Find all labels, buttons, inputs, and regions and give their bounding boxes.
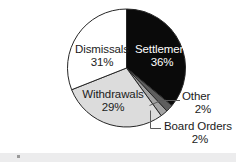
slice-label-board-orders-value: 2% — [164, 133, 236, 146]
slice-label-other-name: Other — [182, 90, 228, 103]
slice-label-withdrawals: Withdrawals 29% — [76, 88, 150, 114]
slice-label-dismissals-name: Dismissals — [70, 43, 134, 56]
slice-label-other: Other 2% — [182, 90, 228, 116]
slice-label-dismissals-value: 31% — [70, 56, 134, 69]
slice-label-other-value: 2% — [182, 103, 224, 116]
slice-label-withdrawals-name: Withdrawals — [76, 88, 150, 101]
slice-label-settlement-name: Settlement — [129, 43, 195, 56]
slice-label-board-orders: Board Orders 2% — [164, 120, 236, 146]
slice-label-board-orders-name: Board Orders — [164, 120, 236, 133]
pie-chart: Dismissals 31% Settlement 36% Withdrawal… — [0, 0, 236, 162]
slice-label-dismissals: Dismissals 31% — [70, 43, 134, 69]
slice-label-settlement: Settlement 36% — [129, 43, 195, 69]
bottom-band-mark-icon — [17, 155, 20, 158]
bottom-band — [0, 153, 236, 162]
slice-label-withdrawals-value: 29% — [76, 101, 150, 114]
slice-label-settlement-value: 36% — [129, 56, 195, 69]
